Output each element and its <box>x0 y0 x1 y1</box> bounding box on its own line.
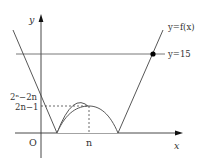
y-axis-arrow-icon <box>39 14 44 22</box>
x-tick-n-label: n <box>86 137 92 148</box>
function-graph-figure: y x O n 2ⁿ−2n 2n−1 y=f(x) y=15 <box>0 0 202 164</box>
graph-canvas: y x O n 2ⁿ−2n 2n−1 y=f(x) y=15 <box>0 0 202 164</box>
y-axis <box>39 14 44 158</box>
origin-label: O <box>29 137 37 148</box>
y-tick-upper-label: 2ⁿ−2n <box>10 92 38 102</box>
y-tick-lower-label: 2n−1 <box>15 102 38 112</box>
curve-right-branch <box>118 30 163 133</box>
intersection-dot <box>150 51 155 56</box>
x-axis-label: x <box>174 140 180 151</box>
curve-label: y=f(x) <box>167 22 195 32</box>
curve-left-branch <box>13 30 57 133</box>
y-axis-label: y <box>28 14 35 25</box>
horizontal-line-label: y=15 <box>167 49 191 59</box>
x-axis-arrow-icon <box>175 131 183 136</box>
